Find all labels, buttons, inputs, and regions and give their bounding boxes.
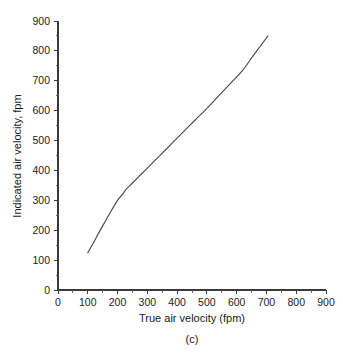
x-tick-label: 200	[109, 296, 127, 308]
x-tick-label: 500	[198, 296, 216, 308]
x-tick-label: 300	[139, 296, 157, 308]
y-axis-title: Indicated air velocity, fpm	[11, 94, 23, 217]
y-tick-label: 500	[32, 134, 50, 146]
x-tick-label: 100	[79, 296, 97, 308]
y-tick-label: 100	[32, 254, 50, 266]
series-group	[88, 36, 268, 253]
y-tick-label: 800	[32, 44, 50, 56]
data-line-series-0	[88, 36, 268, 253]
x-tick-label: 900	[317, 296, 335, 308]
figure-panel: 0100200300400500600700800900 01002003004…	[0, 0, 343, 355]
y-tick-label: 300	[32, 194, 50, 206]
x-tick-label: 700	[258, 296, 276, 308]
y-tick-label: 600	[32, 104, 50, 116]
y-tick-label: 900	[32, 15, 50, 27]
x-axis-title: True air velocity (fpm)	[139, 312, 245, 324]
panel-caption: (c)	[186, 333, 199, 345]
y-tick-label: 400	[32, 164, 50, 176]
y-axis-ticks: 0100200300400500600700800900	[32, 15, 58, 296]
axes-group	[58, 21, 326, 290]
x-tick-label: 400	[168, 296, 186, 308]
y-tick-label: 700	[32, 74, 50, 86]
x-tick-label: 600	[228, 296, 246, 308]
y-tick-label: 0	[44, 284, 50, 296]
x-axis-ticks: 0100200300400500600700800900	[55, 290, 335, 308]
x-tick-label: 0	[55, 296, 61, 308]
x-tick-label: 800	[287, 296, 305, 308]
line-chart: 0100200300400500600700800900 01002003004…	[0, 0, 343, 355]
y-tick-label: 200	[32, 224, 50, 236]
